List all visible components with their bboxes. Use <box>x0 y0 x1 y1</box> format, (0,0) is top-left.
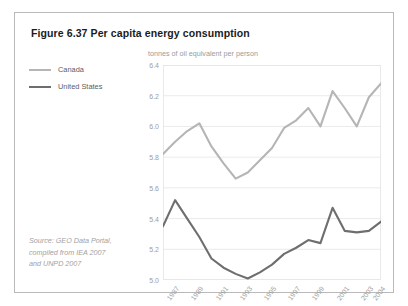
source-line: and UNPD 2007 <box>29 258 149 270</box>
y-axis-tick-label: 6.4 <box>149 62 159 69</box>
y-axis-tick-label: 6.0 <box>149 123 159 130</box>
x-axis-tick-label: 1999 <box>311 285 326 302</box>
x-axis-tick-label: 1987 <box>166 285 181 302</box>
y-axis-tick-label: 5.4 <box>149 215 159 222</box>
chart-svg <box>163 65 381 280</box>
source-line: Source: GEO Data Portal, <box>29 235 149 247</box>
legend-color-swatch <box>29 69 51 71</box>
chart-plot-area: 5.05.25.45.65.86.06.26.41987198919911993… <box>163 65 381 280</box>
plot-border <box>163 65 380 279</box>
y-axis-tick-label: 5.6 <box>149 184 159 191</box>
x-axis-tick-label: 1995 <box>262 285 277 302</box>
y-axis-tick-label: 6.2 <box>149 92 159 99</box>
source-note: Source: GEO Data Portal,compiled from IE… <box>29 235 149 270</box>
x-axis-tick-label: 1989 <box>190 285 205 302</box>
figure-card: Figure 6.37 Per capita energy consumptio… <box>14 12 394 293</box>
y-axis-tick-label: 5.8 <box>149 154 159 161</box>
y-axis-title: tonnes of oil equivalent per person <box>148 49 258 58</box>
x-axis-tick-label: 2003 <box>359 285 374 302</box>
x-axis-tick-label: 1993 <box>238 285 253 302</box>
chart-legend: CanadaUnited States <box>29 63 144 97</box>
y-axis-tick-label: 5.0 <box>149 277 159 284</box>
x-axis-tick-label: 2001 <box>335 285 350 302</box>
page-title: Figure 6.37 Per capita energy consumptio… <box>31 27 250 39</box>
x-axis-tick-label: 1991 <box>214 285 229 302</box>
y-axis-tick-label: 5.2 <box>149 246 159 253</box>
legend-label: Canada <box>58 65 84 74</box>
series-line-canada <box>163 83 381 178</box>
series-line-united-states <box>163 200 381 278</box>
x-axis-tick-label: 1997 <box>287 285 302 302</box>
legend-item[interactable]: Canada <box>29 63 144 76</box>
legend-item[interactable]: United States <box>29 80 144 93</box>
legend-color-swatch <box>29 86 51 88</box>
source-line: compiled from IEA 2007 <box>29 247 149 259</box>
legend-label: United States <box>58 82 102 91</box>
